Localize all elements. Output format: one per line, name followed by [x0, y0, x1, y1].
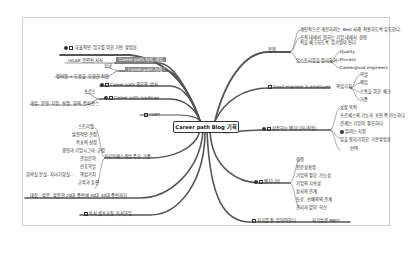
node-new[interactable]: 신규 [104, 63, 112, 68]
list-item[interactable]: 기업의 지속성 [296, 181, 321, 186]
list-item[interactable]: 관계는 기업이 필요하다 [340, 121, 383, 126]
checkbox-icon [105, 83, 109, 87]
checkbox-icon [109, 96, 113, 100]
list-item[interactable]: Quality [340, 49, 355, 54]
node-career-criteria[interactable]: 커리어패스개발 주요 기준 [104, 154, 151, 159]
priority-icon [340, 130, 344, 134]
list-item[interactable]: 조직 내에서 원하는 기업 내에서 경험적을 체크하도록 참가원이 된다 [300, 35, 370, 45]
node-career-path-form[interactable]: Career path 서식 개발 [116, 57, 166, 62]
node-good-engineer[interactable]: Good engineer & employee [268, 84, 331, 89]
node-purpose[interactable]: 목적 [268, 47, 276, 52]
node-reading-coaching[interactable]: 독서 셀프코칭 독서모임 [84, 211, 132, 216]
list-item[interactable]: 회의실 분실, 자녀기회실... [26, 172, 74, 177]
checkbox-icon [268, 85, 272, 89]
priority-icon [104, 96, 108, 100]
checkbox-icon [267, 127, 271, 131]
list-item[interactable]: 관리자 없이 혁신 [296, 205, 327, 210]
node-mbti[interactable]: 자기발견 MBTI [312, 218, 340, 223]
node-target[interactable]: 대상 : 방문, 방문현 20대 중반에 30대 40대 중반까지 [30, 193, 127, 198]
checkbox-icon [84, 212, 88, 216]
node-career-path-roadmap[interactable]: Career path roadmap [104, 95, 159, 100]
node-prod[interactable]: 프로드 [84, 89, 96, 94]
list-item[interactable]: 역할 [360, 72, 368, 77]
list-item[interactable]: 소통을 위한 체크 [360, 89, 391, 94]
priority-icon [64, 46, 68, 50]
list-item[interactable]: 책임 [360, 80, 368, 85]
list-item[interactable]: Process [340, 57, 356, 62]
list-item[interactable]: 기준 [360, 97, 368, 102]
list-item[interactable]: Careerglood engineers [340, 65, 388, 70]
node-dev-ops[interactable]: 개발, 운영, 지원, 설명, 회의, 컨퍼런스 [30, 101, 99, 106]
priority-icon [100, 83, 104, 87]
checkbox-icon [144, 113, 148, 117]
list-item[interactable]: 상사와 관계 [296, 189, 317, 194]
list-item[interactable]: 핵심가치 [80, 172, 96, 177]
list-item[interactable]: 프로세스의 기능과 포인 즉 가능하다 [340, 113, 405, 118]
list-item[interactable]: 전문성확장 [296, 165, 316, 170]
node-copt[interactable]: COPT [144, 112, 160, 117]
node-basic-methodology[interactable]: 효율적인 업무를 위한 기반 방법론 [64, 45, 137, 50]
node-career-path-case[interactable]: Career path 사례 [125, 67, 165, 72]
list-item[interactable]: 업스트리밍을 정리하기 [296, 58, 337, 63]
node-iscar-form[interactable]: ISCAR 관련된 서식 [68, 58, 103, 63]
list-item[interactable]: 알려는 지원 [340, 129, 366, 134]
list-item[interactable]: 일을 잘하기위한 기본방법론 [340, 137, 391, 142]
list-item[interactable]: 개인적으로 개선하려는 Best 사례 적용하도록 유도한다. [300, 27, 401, 32]
node-growing-engineer[interactable]: 성장하는 엔지니어(직원) [262, 126, 317, 131]
checkbox-icon [252, 219, 256, 223]
list-item[interactable]: 경영과 기업시그마 규정 [62, 148, 105, 153]
list-item[interactable]: 발전적인 관점 [72, 132, 97, 137]
list-item[interactable]: 스토리텔 [78, 124, 94, 129]
list-item[interactable]: 성장 목적 [340, 105, 357, 110]
checkbox-icon [259, 180, 263, 184]
node-core-values[interactable]: 핵심가치 [336, 84, 352, 89]
node-maintenance-staff[interactable]: 정비원 + 도움을 요청한 직원 [56, 74, 109, 79]
list-item[interactable]: 선택 [350, 146, 358, 151]
list-item[interactable]: 경험 [296, 157, 304, 162]
list-item[interactable]: 교육과 훈련 [78, 180, 99, 185]
list-item[interactable]: 기업의 필요 가능성 [296, 173, 331, 178]
checkbox-icon [69, 46, 73, 50]
node-engineer[interactable]: 엔지니어 [254, 179, 280, 184]
list-item[interactable]: 목표의 설정 [76, 140, 97, 145]
node-know-yourself[interactable]: 자기를 잘 알아야한다 [252, 218, 296, 223]
node-career-path-overview[interactable]: Career path 개요와 방식 [100, 82, 158, 87]
list-item[interactable]: 선호역할 [80, 164, 96, 169]
priority-icon [262, 127, 266, 131]
list-item[interactable]: 관심분야 [80, 156, 96, 161]
central-topic[interactable]: Career path Blog 기획 [173, 121, 239, 133]
list-item[interactable]: 동료, 선배와의 관계 [296, 197, 332, 202]
priority-icon [254, 180, 258, 184]
